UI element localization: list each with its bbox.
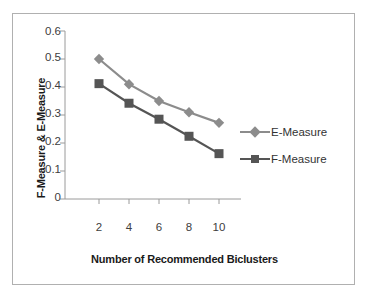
data-point-marker-f-measure bbox=[185, 132, 194, 141]
data-point-marker-f-measure bbox=[155, 115, 164, 124]
data-point-marker-f-measure bbox=[95, 79, 104, 88]
legend-swatch-f-measure bbox=[240, 153, 270, 165]
data-point-marker-f-measure bbox=[215, 149, 224, 158]
x-axis-title: Number of Recommended Biclusters bbox=[13, 253, 356, 265]
chart-plot-area bbox=[13, 14, 356, 286]
y-tick-label-0: 0.6 bbox=[27, 25, 61, 37]
x-tick-label-1: 4 bbox=[117, 221, 141, 233]
diamond-marker-icon bbox=[249, 126, 260, 137]
data-point-marker-e-measure bbox=[184, 107, 194, 117]
legend-item-f-measure[interactable]: F-Measure bbox=[240, 153, 327, 165]
data-point-marker-f-measure bbox=[125, 99, 134, 108]
x-tick-label-3: 8 bbox=[177, 221, 201, 233]
y-axis-title: F-Measure & E-Measure bbox=[35, 48, 47, 228]
x-tick-label-0: 2 bbox=[87, 221, 111, 233]
x-tick-label-2: 6 bbox=[147, 221, 171, 233]
series-line-e-measure bbox=[99, 59, 219, 123]
data-point-marker-e-measure bbox=[214, 118, 224, 128]
legend-item-e-measure[interactable]: E-Measure bbox=[240, 126, 327, 138]
data-point-marker-e-measure bbox=[154, 96, 164, 106]
legend-swatch-e-measure bbox=[240, 126, 270, 138]
x-tick-label-4: 10 bbox=[207, 221, 231, 233]
legend-label-e-measure: E-Measure bbox=[271, 126, 327, 138]
legend-label-f-measure: F-Measure bbox=[271, 153, 327, 165]
square-marker-icon bbox=[251, 155, 259, 163]
chart-figure: 0.6 0.5 0.4 0.3 0.2 0.1 0 2 4 6 8 10 Num… bbox=[12, 13, 355, 285]
